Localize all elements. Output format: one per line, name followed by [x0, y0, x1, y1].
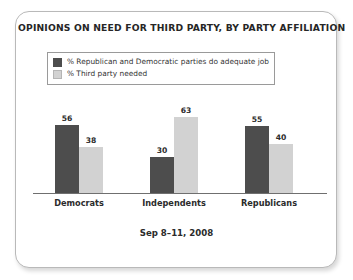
x-axis-line [33, 193, 327, 194]
bar-group-independents: 30 63 [150, 108, 214, 193]
chart-legend: % Republican and Democratic parties do a… [47, 52, 275, 85]
bar-independents-adequate [150, 157, 174, 193]
bar-republicans-third [269, 144, 293, 193]
bar-democrats-third [79, 147, 103, 193]
chart-plot-area: 56 38 30 63 55 40 [33, 108, 312, 193]
chart-footer-date: Sep 8–11, 2008 [0, 228, 353, 238]
x-tick-label-democrats: Democrats [34, 198, 124, 208]
bar-value-democrats-third: 38 [79, 137, 103, 145]
bar-value-republicans-adequate: 55 [245, 116, 269, 124]
bar-independents-third [174, 117, 198, 193]
bar-value-republicans-third: 40 [269, 134, 293, 142]
legend-swatch-light [53, 70, 62, 79]
legend-item-adequate-job: % Republican and Democratic parties do a… [53, 56, 269, 68]
x-tick-label-republicans: Republicans [224, 198, 314, 208]
x-tick-label-independents: Independents [129, 198, 219, 208]
legend-swatch-dark [53, 58, 62, 67]
bar-republicans-adequate [245, 126, 269, 193]
page-title: OPINIONS ON NEED FOR THIRD PARTY, BY PAR… [18, 22, 345, 33]
x-axis-tick-labels: Democrats Independents Republicans [33, 198, 312, 212]
bar-group-republicans: 55 40 [245, 108, 309, 193]
bar-value-independents-third: 63 [174, 107, 198, 115]
legend-item-third-party: % Third party needed [53, 68, 269, 80]
bar-value-democrats-adequate: 56 [55, 115, 79, 123]
bar-value-independents-adequate: 30 [150, 147, 174, 155]
bar-democrats-adequate [55, 125, 79, 193]
legend-label-adequate-job: % Republican and Democratic parties do a… [67, 58, 269, 65]
bar-group-democrats: 56 38 [55, 108, 119, 193]
legend-label-third-party: % Third party needed [67, 70, 147, 77]
